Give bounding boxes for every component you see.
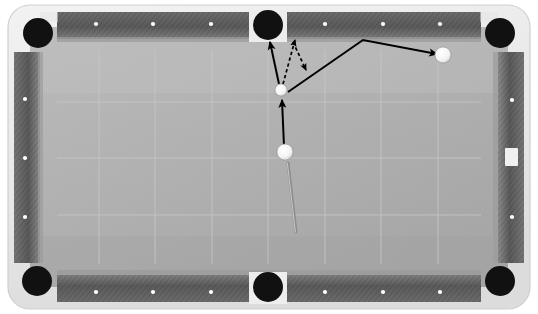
rail-diamond-bottom (209, 290, 213, 294)
rail-diamond-top (381, 22, 385, 26)
object-ball (275, 84, 287, 96)
rail-diamond-bottom (94, 290, 98, 294)
pocket-top-right (485, 18, 515, 48)
rail-diamond-top (323, 22, 327, 26)
rail-diamond-top (94, 22, 98, 26)
target-ball-right (435, 47, 451, 63)
rail-diamond-left (23, 215, 27, 219)
rail-diamond-right (510, 98, 514, 102)
rail-chalk-patch (505, 148, 518, 166)
table-bed (30, 27, 508, 287)
pocket-bottom-center (253, 272, 283, 302)
rail-diamond-top (209, 22, 213, 26)
rail-diamond-left (23, 97, 27, 101)
rail-diamond-right (510, 215, 514, 219)
pocket-top-left (23, 18, 53, 48)
pocket-top-center (253, 10, 283, 40)
pocket-bottom-right (485, 266, 515, 296)
rail-diamond-top (151, 22, 155, 26)
rail-diamond-top (438, 22, 442, 26)
rail-diamond-bottom (438, 290, 442, 294)
pocket-bottom-left (22, 266, 52, 296)
rail-left (14, 52, 43, 263)
rail-diamond-left (23, 156, 27, 160)
rail-diamond-bottom (323, 290, 327, 294)
pool-table-diagram (0, 0, 538, 314)
pool-table-svg (0, 0, 538, 314)
rail-diamond-bottom (151, 290, 155, 294)
rail-diamond-bottom (381, 290, 385, 294)
cue-ball (277, 144, 293, 160)
